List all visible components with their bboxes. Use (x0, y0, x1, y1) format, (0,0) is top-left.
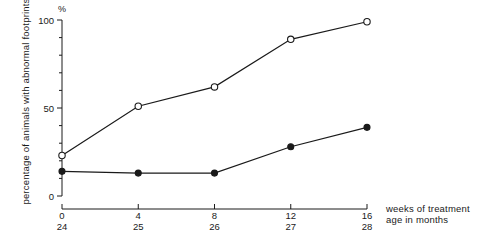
data-point-open-circle-series (135, 103, 141, 109)
data-series-group (59, 19, 370, 177)
x-axis-tick-label-weeks: 12 (285, 210, 296, 221)
x-axis-tick-label-weeks: 4 (136, 210, 141, 221)
data-point-open-circle-series (364, 19, 370, 25)
chart-plot-area: % 050100 02442582612271628 (0, 0, 478, 236)
x-axis-tick-label-months: 28 (362, 221, 373, 232)
chart-container: percentage of animals with abnormal foot… (0, 0, 478, 236)
x-axis-title-months: age in months (386, 214, 448, 225)
data-point-filled-circle-series (59, 168, 65, 174)
x-axis-tick-label-months: 25 (133, 221, 144, 232)
y-axis-tick-label: 100 (38, 15, 54, 26)
data-point-filled-circle-series (135, 170, 141, 176)
y-axis-title: percentage of animals with abnormal foot… (20, 0, 31, 207)
y-axis-tick-label: 50 (43, 103, 54, 114)
x-axis-title-weeks: weeks of treatment (386, 203, 470, 214)
y-axis-tick-label: 0 (49, 191, 54, 202)
x-axis-tick-label-months: 26 (209, 221, 220, 232)
data-point-filled-circle-series (212, 170, 218, 176)
data-point-filled-circle-series (364, 124, 370, 130)
series-line-filled-circle-series (62, 127, 367, 173)
x-axis-tick-label-weeks: 8 (212, 210, 217, 221)
data-point-filled-circle-series (288, 144, 294, 150)
x-axis-tick-label-weeks: 0 (59, 210, 64, 221)
x-axis-tick-label-weeks: 16 (362, 210, 373, 221)
x-axis-tick-label-months: 24 (57, 221, 68, 232)
data-point-open-circle-series (288, 36, 294, 42)
x-axis-tick-label-months: 27 (285, 221, 296, 232)
data-point-open-circle-series (59, 152, 65, 158)
y-axis: 050100 (38, 15, 62, 202)
y-axis-unit-label: % (58, 4, 66, 14)
data-point-open-circle-series (211, 84, 217, 90)
x-axis: 02442582612271628 (57, 204, 373, 232)
